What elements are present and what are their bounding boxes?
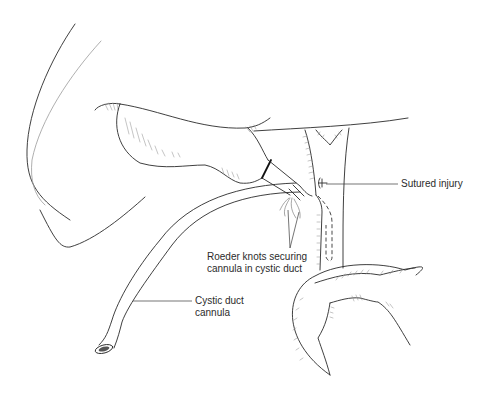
surgical-illustration <box>0 0 483 397</box>
roeder-knots <box>280 198 300 218</box>
label-cannula-line2: cannula <box>195 307 230 319</box>
label-cannula-line1: Cystic duct <box>195 295 244 307</box>
gallbladder <box>95 103 270 183</box>
leader-roeder-knots <box>288 210 299 248</box>
liver-edge <box>27 24 145 247</box>
suture-stitch <box>319 178 328 188</box>
liver-inferior-border <box>254 118 408 131</box>
cystic-duct <box>262 160 312 196</box>
label-sutured-injury: Sutured injury <box>401 178 463 190</box>
bile-ducts <box>303 128 349 270</box>
label-roeder-knots-line1: Roeder knots securing <box>207 251 307 263</box>
duodenum <box>292 265 422 375</box>
cystic-duct-ligature <box>262 160 271 178</box>
label-roeder-knots-line2: cannula in cystic duct <box>207 263 302 275</box>
